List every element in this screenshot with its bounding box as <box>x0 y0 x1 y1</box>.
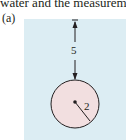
distance-label: 5 <box>71 44 77 56</box>
figure-diagram <box>0 0 126 140</box>
radius-label: 2 <box>84 100 90 112</box>
circle-shape <box>51 80 99 128</box>
up-arrowhead-icon <box>73 21 78 28</box>
down-arrowhead-icon <box>73 73 78 80</box>
